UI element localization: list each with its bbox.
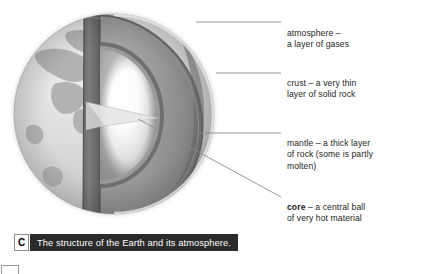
- label-core: core – a central ball of very hot materi…: [287, 190, 423, 225]
- earth-diagram: [8, 6, 220, 224]
- caption-text: The structure of the Earth and its atmos…: [30, 234, 238, 251]
- label-atmosphere-text: atmosphere – a layer of gases: [287, 28, 349, 50]
- label-core-term: core: [287, 202, 306, 212]
- label-atmosphere: atmosphere – a layer of gases: [287, 16, 423, 51]
- page-corner-marker: [1, 265, 19, 274]
- caption-badge: C: [14, 234, 29, 251]
- figure-caption: C The structure of the Earth and its atm…: [14, 234, 238, 251]
- label-mantle: mantle – a thick layer of rock (some is …: [287, 126, 423, 172]
- earth-illustration: [8, 6, 220, 224]
- label-mantle-text: mantle – a thick layer of rock (some is …: [287, 138, 373, 171]
- label-crust: crust – a very thin layer of solid rock: [287, 66, 423, 101]
- label-crust-text: crust – a very thin layer of solid rock: [287, 78, 356, 100]
